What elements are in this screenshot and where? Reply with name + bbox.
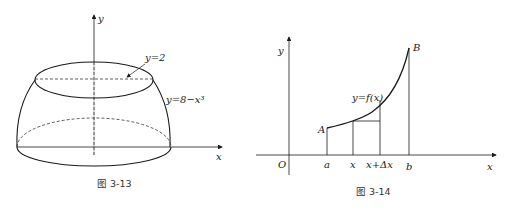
diagram-canvas: y x y=2 y=8−x³ 图 3-13 y x O B A y=f(x) a… xyxy=(0,0,513,212)
tick-x-label: x xyxy=(350,159,356,170)
figure-3-14: y x O B A y=f(x) a x x+Δx b 图 3-14 xyxy=(256,37,496,197)
tick-a-label: a xyxy=(324,159,330,170)
surface-curve-label: y=8−x³ xyxy=(165,94,204,105)
point-b-label: B xyxy=(412,42,420,53)
left-side-curve xyxy=(17,80,35,147)
top-plane-label: y=2 xyxy=(144,52,165,63)
y-axis-label: y xyxy=(97,13,104,24)
x-axis-label: x xyxy=(216,151,222,162)
curve-label: y=f(x) xyxy=(351,92,383,103)
y-axis-label: y xyxy=(277,45,284,56)
x-axis-label: x xyxy=(487,161,493,172)
right-side-curve xyxy=(153,80,170,147)
origin-label: O xyxy=(278,159,286,170)
figure-3-13: y x y=2 y=8−x³ 图 3-13 xyxy=(17,13,222,189)
curve-f-x xyxy=(327,48,409,128)
point-a-label: A xyxy=(317,124,325,135)
tick-b-label: b xyxy=(406,161,412,172)
figure-caption: 图 3-14 xyxy=(356,186,391,197)
figure-caption: 图 3-13 xyxy=(97,178,132,189)
tick-x-dx-label: x+Δx xyxy=(366,159,393,170)
